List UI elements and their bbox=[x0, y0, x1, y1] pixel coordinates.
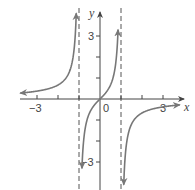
origin-label: 0 bbox=[103, 102, 109, 114]
function-graph: −3 0 3 3 −3 x y bbox=[0, 0, 195, 190]
y-axis-label: y bbox=[88, 6, 95, 20]
left-branch bbox=[20, 13, 76, 93]
y-tick-label-3: 3 bbox=[88, 30, 94, 42]
x-tick-label-neg3: −3 bbox=[29, 102, 42, 114]
right-branch bbox=[124, 105, 180, 185]
x-axis-label: x bbox=[183, 100, 190, 114]
